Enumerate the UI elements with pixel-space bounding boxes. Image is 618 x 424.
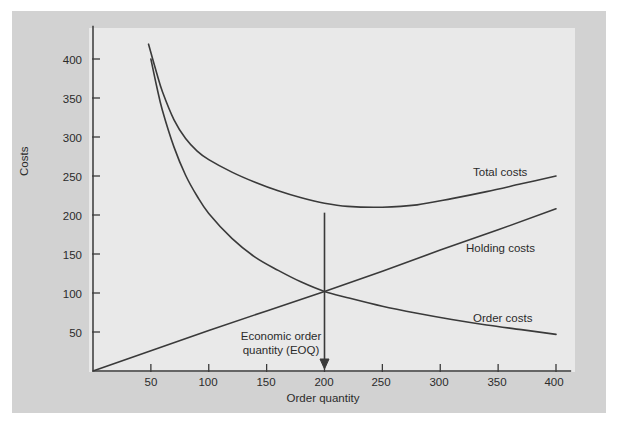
xtick-label-200: 200: [304, 376, 344, 388]
series-line-order-costs: [151, 59, 556, 334]
xtick-label-350: 350: [477, 376, 517, 388]
chart-canvas: [0, 0, 618, 424]
xtick-label-300: 300: [419, 376, 459, 388]
ytick-label-400: 400: [44, 54, 82, 66]
eoq-annotation-text: Economic order quantity (EOQ): [222, 329, 340, 357]
ytick-label-150: 150: [44, 249, 82, 261]
ytick-label-50: 50: [44, 327, 82, 339]
ytick-label-350: 350: [44, 93, 82, 105]
series-label-total-costs: Total costs: [473, 166, 527, 178]
ytick-label-300: 300: [44, 132, 82, 144]
ytick-label-100: 100: [44, 288, 82, 300]
ytick-label-200: 200: [44, 210, 82, 222]
eoq-arrow-head: [320, 359, 329, 369]
eoq-annotation-line-2: quantity (EOQ): [222, 343, 340, 357]
series-line-total-costs: [149, 44, 556, 207]
y-axis-title: Costs: [18, 147, 30, 176]
xtick-label-400: 400: [534, 376, 574, 388]
ytick-label-250: 250: [44, 171, 82, 183]
eoq-chart-figure: 400 350 300 250 200 150 100 50 50 100 15…: [0, 0, 618, 424]
series-label-holding-costs: Holding costs: [466, 242, 535, 254]
xtick-label-50: 50: [131, 376, 171, 388]
x-axis-title: Order quantity: [258, 392, 388, 404]
xtick-label-100: 100: [188, 376, 228, 388]
eoq-annotation-line-1: Economic order: [222, 329, 340, 343]
series-label-order-costs: Order costs: [473, 312, 532, 324]
xtick-label-150: 150: [246, 376, 286, 388]
xtick-label-250: 250: [361, 376, 401, 388]
